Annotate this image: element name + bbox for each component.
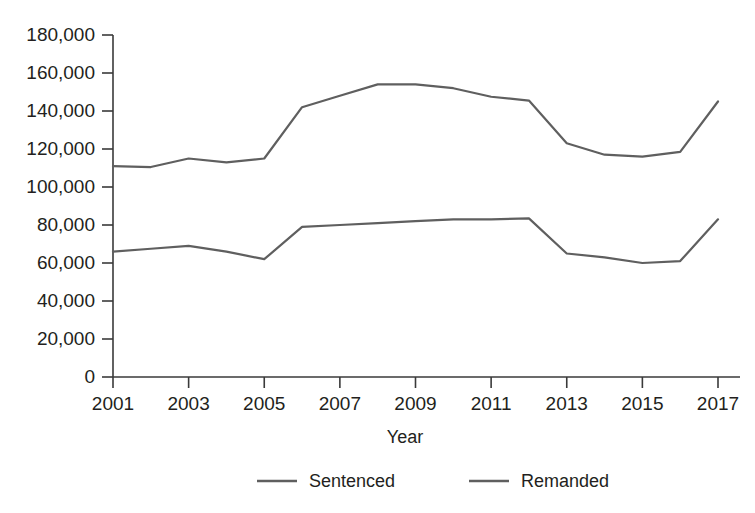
y-axis-tick-label: 120,000 bbox=[26, 138, 95, 159]
y-axis-tick-label: 140,000 bbox=[26, 100, 95, 121]
x-axis-title: Year bbox=[387, 427, 423, 447]
x-axis-tick-label: 2013 bbox=[546, 393, 588, 414]
x-axis-tick-marks bbox=[113, 377, 718, 388]
x-axis-tick-label: 2017 bbox=[697, 393, 739, 414]
chart-legend: SentencedRemanded bbox=[257, 471, 609, 491]
legend-label-sentenced[interactable]: Sentenced bbox=[309, 471, 395, 491]
x-axis-tick-label: 2003 bbox=[167, 393, 209, 414]
x-axis-tick-label: 2009 bbox=[394, 393, 436, 414]
y-axis-tick-label: 60,000 bbox=[37, 252, 95, 273]
y-axis-tick-labels: 020,00040,00060,00080,000100,000120,0001… bbox=[26, 24, 95, 387]
x-axis-tick-label: 2005 bbox=[243, 393, 285, 414]
series-line-sentenced bbox=[113, 84, 718, 167]
y-axis-tick-marks bbox=[102, 35, 113, 377]
line-chart: 020,00040,00060,00080,000100,000120,0001… bbox=[0, 0, 755, 513]
series-line-remanded bbox=[113, 218, 718, 263]
y-axis-tick-label: 100,000 bbox=[26, 176, 95, 197]
y-axis-tick-label: 180,000 bbox=[26, 24, 95, 45]
x-axis-tick-label: 2007 bbox=[319, 393, 361, 414]
y-axis-tick-label: 80,000 bbox=[37, 214, 95, 235]
y-axis-tick-label: 40,000 bbox=[37, 290, 95, 311]
x-axis-tick-label: 2001 bbox=[92, 393, 134, 414]
y-axis-tick-label: 160,000 bbox=[26, 62, 95, 83]
y-axis-tick-label: 0 bbox=[84, 366, 95, 387]
y-axis-tick-label: 20,000 bbox=[37, 328, 95, 349]
legend-label-remanded[interactable]: Remanded bbox=[521, 471, 609, 491]
chart-canvas: 020,00040,00060,00080,000100,000120,0001… bbox=[0, 0, 755, 513]
x-axis-tick-label: 2011 bbox=[471, 393, 512, 414]
series-lines bbox=[113, 84, 718, 263]
x-axis-tick-labels: 200120032005200720092011201320152017 bbox=[92, 393, 739, 414]
x-axis-tick-label: 2015 bbox=[621, 393, 663, 414]
